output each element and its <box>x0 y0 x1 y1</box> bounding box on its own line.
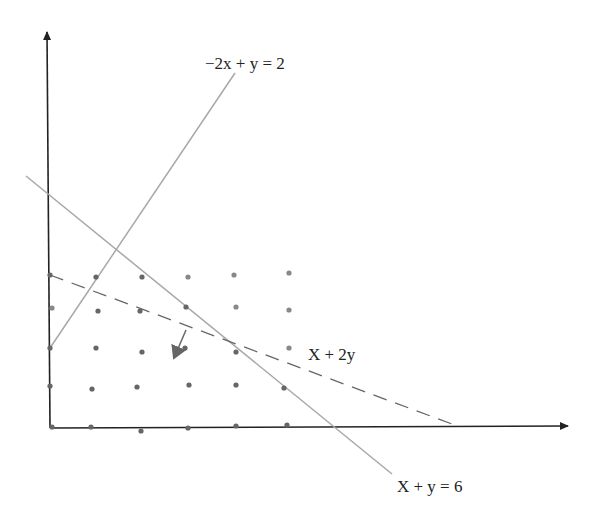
y-axis <box>47 32 50 428</box>
x-axis <box>50 426 568 428</box>
label-constraint-neg2x-plus-y-eq-2: −2x + y = 2 <box>205 54 285 73</box>
constraint-line-x-plus-y <box>26 176 392 474</box>
label-constraint-x-plus-y-eq-6: X + y = 6 <box>397 477 462 496</box>
ilp-diagram: −2x + y = 2 X + 2y X + y = 6 <box>0 0 589 529</box>
optimization-direction-arrow-icon <box>174 330 186 358</box>
objective-line-x-plus-2y <box>50 275 452 424</box>
constraint-line-neg2x-plus-y <box>50 73 235 348</box>
lattice-points <box>47 270 291 433</box>
label-objective-x-plus-2y: X + 2y <box>308 345 356 364</box>
